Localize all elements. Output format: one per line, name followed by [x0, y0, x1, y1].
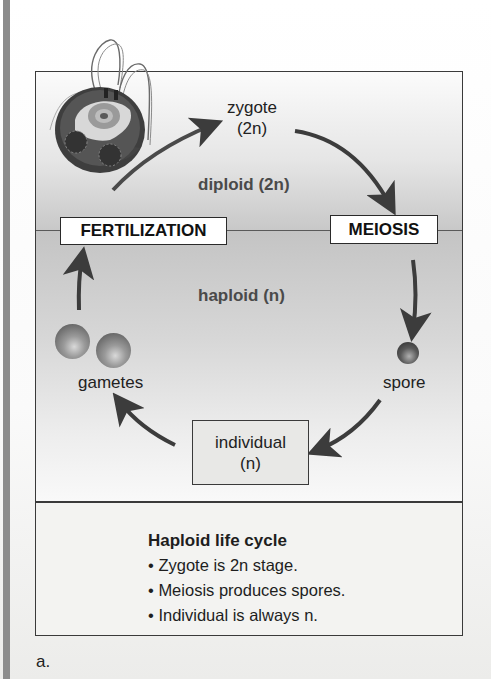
caption-heading: Haploid life cycle: [148, 528, 345, 553]
figure-caption: Haploid life cycle Zygote is 2n stage. M…: [148, 528, 345, 628]
gamete-sphere-icon: [55, 324, 90, 359]
zygote-name: zygote: [212, 97, 292, 118]
meiosis-stage-box: MEIOSIS: [330, 215, 438, 244]
caption-bullet: Individual is always n.: [148, 603, 345, 628]
page-edge-bar: [3, 0, 10, 679]
individual-node-box: individual (n): [192, 420, 309, 485]
caption-bullet: Zygote is 2n stage.: [148, 553, 345, 578]
gametes-label: gametes: [78, 372, 143, 393]
zygote-ploidy: (2n): [212, 118, 292, 139]
fertilization-stage-box: FERTILIZATION: [60, 217, 227, 245]
individual-ploidy: (n): [240, 453, 261, 474]
spore-sphere-icon: [397, 342, 419, 364]
diploid-zone-label: diploid (2n): [198, 175, 290, 195]
spore-label: spore: [383, 372, 426, 393]
gamete-sphere-icon: [96, 333, 131, 368]
individual-name: individual: [215, 432, 286, 453]
caption-bullet: Meiosis produces spores.: [148, 578, 345, 603]
zygote-label: zygote (2n): [212, 97, 292, 139]
panel-label: a.: [36, 652, 50, 672]
haploid-zone-label: haploid (n): [198, 286, 285, 306]
algae-cell-illustration-icon: [40, 30, 170, 175]
